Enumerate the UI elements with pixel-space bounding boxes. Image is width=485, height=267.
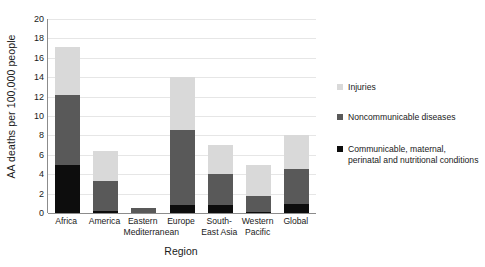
legend-label: Injuries	[348, 82, 376, 93]
x-tick-label: Global	[277, 216, 315, 227]
bar-segment-noncommunicable	[246, 196, 271, 212]
bar-group[interactable]	[208, 19, 233, 213]
bar-group[interactable]	[246, 19, 271, 213]
legend-swatch-icon	[337, 146, 343, 152]
bars-layer	[48, 19, 316, 213]
bar-segment-noncommunicable	[93, 181, 118, 211]
legend-swatch-icon	[337, 114, 343, 120]
bar-segment-noncommunicable	[208, 174, 233, 206]
x-tick-label: Europe	[162, 216, 200, 227]
legend-item[interactable]: Communicable, maternal, perinatal and nu…	[337, 144, 478, 165]
bar-segment-injuries	[246, 165, 271, 197]
bar-segment-injuries	[170, 77, 195, 129]
y-tick-label: 12	[34, 92, 44, 102]
bar-segment-communicable	[284, 204, 309, 213]
y-tick-label: 16	[34, 53, 44, 63]
y-tick-label: 6	[39, 150, 44, 160]
y-tick-label: 14	[34, 72, 44, 82]
y-tick-label: 20	[34, 14, 44, 24]
bar-group[interactable]	[131, 19, 156, 213]
bar-segment-noncommunicable	[55, 95, 80, 166]
x-tick-label: America	[85, 216, 123, 227]
legend-label: Noncommunicable diseases	[348, 112, 455, 123]
x-axis-line	[48, 213, 316, 214]
bar-group[interactable]	[55, 19, 80, 213]
x-tick-label: South-East Asia	[200, 216, 238, 237]
bar-segment-noncommunicable	[284, 169, 309, 204]
x-tick-label: Western Pacific	[238, 216, 276, 237]
bar-segment-injuries	[55, 47, 80, 95]
bar-group[interactable]	[170, 19, 195, 213]
bar-segment-noncommunicable	[170, 130, 195, 205]
y-tick-label: 10	[34, 111, 44, 121]
legend-swatch-icon	[337, 84, 343, 90]
y-tick-label: 4	[39, 169, 44, 179]
y-tick-label: 2	[39, 189, 44, 199]
plot-area	[47, 19, 316, 213]
stacked-bar-chart: AA deaths per 100,000 people 02468101214…	[0, 0, 485, 267]
y-tick-label: 0	[39, 208, 44, 218]
y-axis-title: AA deaths per 100,000 people	[0, 0, 22, 213]
bar-group[interactable]	[284, 19, 309, 213]
x-tick-label: Eastern Mediterranean	[124, 216, 162, 237]
y-axis-tick-labels: 02468101214161820	[24, 0, 44, 267]
y-tick-label: 18	[34, 33, 44, 43]
bar-segment-injuries	[208, 145, 233, 174]
bar-group[interactable]	[93, 19, 118, 213]
x-tick-label: Africa	[47, 216, 85, 227]
bar-segment-injuries	[93, 151, 118, 181]
y-tick-label: 8	[39, 130, 44, 140]
legend-label: Communicable, maternal, perinatal and nu…	[348, 144, 478, 165]
legend-item[interactable]: Injuries	[337, 82, 376, 93]
x-axis-title: Region	[47, 245, 315, 257]
legend-item[interactable]: Noncommunicable diseases	[337, 112, 455, 123]
bar-segment-communicable	[55, 165, 80, 213]
bar-segment-injuries	[284, 135, 309, 169]
